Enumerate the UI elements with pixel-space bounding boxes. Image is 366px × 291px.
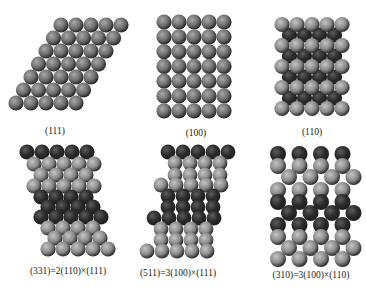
atom-mid xyxy=(186,74,201,89)
atom-light xyxy=(335,251,351,267)
atom-mid xyxy=(156,29,171,44)
atom-mid xyxy=(156,74,171,89)
atom-mid xyxy=(91,30,106,45)
atom-mid xyxy=(201,74,216,89)
atom-mid xyxy=(31,56,46,71)
atom-mid xyxy=(113,17,128,32)
atom-light xyxy=(289,80,304,95)
atom-light xyxy=(319,17,334,32)
atom-light xyxy=(303,169,319,185)
atom-light xyxy=(319,38,334,53)
atom-mid xyxy=(216,88,231,103)
panel-111 xyxy=(8,17,128,110)
atom-dark xyxy=(346,205,362,221)
atom-mid xyxy=(216,44,231,59)
crystal-surfaces-figure xyxy=(0,0,366,291)
atom-light xyxy=(289,17,304,32)
atom-light xyxy=(274,59,289,74)
atom-mid xyxy=(83,69,98,84)
atom-mid xyxy=(38,69,53,84)
atom-mid xyxy=(201,88,216,103)
atom-mid xyxy=(216,74,231,89)
atom-mid xyxy=(76,82,91,97)
atom-mid xyxy=(171,59,186,74)
atom-mid xyxy=(68,69,83,84)
atom-mid xyxy=(216,59,231,74)
atom-light xyxy=(200,244,215,259)
atom-mid xyxy=(156,14,171,29)
atom-light xyxy=(319,101,334,116)
atom-light xyxy=(274,38,289,53)
atom-dark xyxy=(324,205,340,221)
atom-mid xyxy=(83,43,98,58)
atom-mid xyxy=(216,14,231,29)
atom-mid xyxy=(156,88,171,103)
atom-mid xyxy=(61,82,76,97)
atom-light xyxy=(319,59,334,74)
atom-light xyxy=(346,169,362,185)
atom-mid xyxy=(171,44,186,59)
atom-mid xyxy=(98,17,113,32)
atom-light xyxy=(289,59,304,74)
atom-light xyxy=(40,241,55,256)
atom-mid xyxy=(8,95,23,110)
atom-light xyxy=(304,38,319,53)
atom-light xyxy=(281,169,297,185)
panel-110 xyxy=(274,17,349,116)
atom-mid xyxy=(201,14,216,29)
panel-331 xyxy=(19,144,115,256)
atom-light xyxy=(292,251,308,267)
atom-light xyxy=(274,80,289,95)
atom-mid xyxy=(186,88,201,103)
label-331: (331)=2(110)×(111) xyxy=(30,266,106,276)
atom-light xyxy=(289,101,304,116)
atom-mid xyxy=(201,59,216,74)
label-100: (100) xyxy=(186,128,207,138)
atom-light xyxy=(155,244,170,259)
atom-mid xyxy=(186,29,201,44)
atom-mid xyxy=(186,14,201,29)
atom-mid xyxy=(53,69,68,84)
atom-mid xyxy=(201,29,216,44)
atom-mid xyxy=(171,103,186,118)
atom-light xyxy=(304,17,319,32)
atom-light xyxy=(334,38,349,53)
label-111: (111) xyxy=(45,126,65,136)
atom-mid xyxy=(46,82,61,97)
atom-mid xyxy=(201,103,216,118)
atom-mid xyxy=(68,43,83,58)
atom-mid xyxy=(23,95,38,110)
atom-light xyxy=(270,251,286,267)
atom-mid xyxy=(76,30,91,45)
atom-mid xyxy=(171,14,186,29)
atom-light xyxy=(304,80,319,95)
atom-mid xyxy=(186,44,201,59)
atom-mid xyxy=(46,30,61,45)
atom-light xyxy=(274,101,289,116)
atom-light xyxy=(100,241,115,256)
atom-light xyxy=(334,80,349,95)
atom-mid xyxy=(156,59,171,74)
atom-mid xyxy=(98,43,113,58)
atom-mid xyxy=(46,56,61,71)
label-310: (310)=3(100)×(110) xyxy=(273,270,350,280)
atom-light xyxy=(304,59,319,74)
atom-mid xyxy=(216,29,231,44)
panel-100 xyxy=(156,14,231,118)
atom-mid xyxy=(31,82,46,97)
atom-mid xyxy=(216,103,231,118)
label-511: (511)=3(100)×(111) xyxy=(140,268,216,278)
atom-light xyxy=(334,101,349,116)
atom-light xyxy=(70,241,85,256)
atom-mid xyxy=(201,44,216,59)
atom-mid xyxy=(106,30,121,45)
atom-mid xyxy=(53,43,68,58)
atom-mid xyxy=(53,17,68,32)
atom-light xyxy=(334,17,349,32)
atom-mid xyxy=(186,59,201,74)
atom-mid xyxy=(83,17,98,32)
atom-light xyxy=(85,241,100,256)
atom-mid xyxy=(171,88,186,103)
atom-mid xyxy=(91,56,106,71)
atom-mid xyxy=(171,74,186,89)
